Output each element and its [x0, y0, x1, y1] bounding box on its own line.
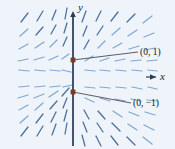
slope-segment: [116, 70, 126, 71]
y-axis-arrowhead: [70, 11, 76, 17]
slope-segment: [19, 105, 28, 110]
slope-segment: [65, 8, 67, 19]
slope-segment: [51, 112, 56, 122]
slope-segment: [143, 16, 152, 23]
slope-segment: [62, 70, 71, 72]
slope-segment: [84, 110, 89, 119]
slope-segment: [34, 57, 44, 60]
slope-segment: [35, 86, 45, 87]
slope-segment: [115, 59, 125, 61]
slope-segment: [19, 44, 28, 49]
slope-segment: [18, 95, 28, 98]
slope-segment: [131, 60, 141, 61]
slope-segment: [96, 11, 101, 21]
slope-segment: [111, 12, 118, 21]
slope-segment: [34, 94, 44, 98]
slope-segment: [128, 124, 137, 130]
slope-segment: [64, 110, 67, 121]
slope-segment: [62, 88, 69, 96]
slope-field-canvas: [0, 0, 175, 149]
slope-segment: [132, 70, 142, 71]
slope-segment: [145, 112, 155, 115]
x-axis-label: x: [160, 71, 165, 82]
slope-segment: [52, 10, 56, 20]
slope-segment: [50, 86, 60, 87]
slope-segment: [98, 111, 105, 119]
slope-segment: [50, 70, 60, 71]
slope-field-figure: y x (0, 1) (0, −1): [0, 0, 175, 149]
slope-segment: [50, 40, 57, 47]
slope-segment: [143, 137, 152, 144]
slope-segment: [63, 85, 72, 87]
slope-segment: [132, 87, 142, 89]
slope-segment: [63, 37, 67, 46]
slope-segment: [84, 40, 89, 49]
equilibrium-leader-line: [73, 92, 131, 103]
slope-segment: [19, 70, 29, 71]
slope-segment: [20, 116, 28, 123]
slope-segment: [112, 123, 120, 131]
slope-segment: [35, 103, 43, 110]
slope-segment: [127, 137, 135, 145]
equilibrium-label-lower: (0, −1): [133, 99, 159, 109]
slope-segment: [111, 136, 118, 145]
slope-segment: [96, 136, 101, 146]
slope-segment: [144, 125, 154, 130]
slope-segment: [64, 23, 67, 33]
slope-segment: [20, 29, 28, 36]
slope-segment: [97, 26, 103, 35]
slope-segment: [51, 25, 56, 34]
slope-segment: [85, 98, 94, 102]
slope-segment: [129, 46, 139, 49]
y-axis-label: y: [78, 2, 83, 13]
slope-segment: [144, 33, 154, 37]
slope-segment: [36, 114, 43, 123]
slope-segment: [65, 123, 67, 134]
slope-segment: [116, 87, 126, 88]
slope-segment: [50, 101, 57, 109]
slope-segment: [21, 127, 28, 136]
slope-segment: [37, 11, 43, 21]
slope-segment: [128, 30, 137, 36]
slope-segment: [85, 87, 95, 88]
slope-segment: [98, 41, 105, 48]
slope-segment: [148, 70, 157, 71]
slope-segment: [49, 91, 58, 97]
slope-segment: [97, 123, 103, 132]
equilibrium-point-marker: [71, 58, 76, 63]
slope-segment: [52, 124, 56, 135]
slope-segment: [85, 70, 95, 71]
slope-segment: [82, 135, 85, 146]
slope-segment: [148, 87, 157, 89]
slope-segment: [100, 87, 110, 88]
slope-segment: [100, 70, 110, 71]
slope-segment: [62, 54, 69, 59]
slope-segment: [63, 98, 67, 108]
slope-segment: [36, 27, 43, 35]
slope-segment: [19, 86, 29, 87]
slope-segment: [113, 43, 122, 48]
slope-segment: [127, 14, 135, 22]
slope-segment: [113, 111, 122, 117]
slope-segment: [83, 122, 87, 132]
slope-segment: [49, 56, 58, 60]
slope-segment: [21, 13, 28, 22]
slope-segment: [100, 58, 109, 61]
slope-segment: [37, 126, 43, 136]
slope-segment: [147, 60, 157, 61]
slope-segment: [35, 42, 44, 48]
slope-segment: [112, 28, 120, 35]
x-axis-arrowhead: [150, 74, 156, 80]
slope-segment: [18, 59, 28, 61]
slope-segment: [83, 26, 87, 36]
slope-segment: [35, 70, 45, 71]
equilibrium-label-upper: (0, 1): [140, 48, 161, 58]
equilibrium-point-marker: [71, 90, 76, 95]
slope-segment: [129, 112, 139, 116]
